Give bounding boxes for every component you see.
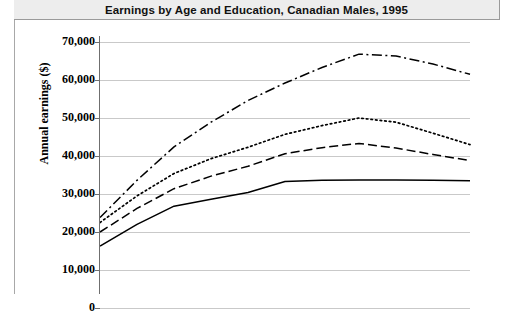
chart-lines-svg xyxy=(100,42,472,312)
y-axis-tick-label: 70,000 xyxy=(3,34,95,49)
y-axis-tick-label: 10,000 xyxy=(3,262,95,277)
y-axis-tick-label: 30,000 xyxy=(3,186,95,201)
series-line-solid xyxy=(100,180,470,246)
y-axis-tick-label: 20,000 xyxy=(3,224,95,239)
y-axis-tick-label: 40,000 xyxy=(3,148,95,163)
y-axis-tick-label: 60,000 xyxy=(3,72,95,87)
series-lines xyxy=(100,54,470,246)
y-axis-tick-label: 50,000 xyxy=(3,110,95,125)
series-line-dotted xyxy=(100,118,470,223)
y-axis-tick-label: 0 xyxy=(3,300,95,315)
page-title: Earnings by Age and Education, Canadian … xyxy=(105,4,408,16)
y-axis-tick-labels: 70,00060,00050,00040,00030,00020,00010,0… xyxy=(0,0,95,294)
plot-area xyxy=(100,42,470,308)
series-line-dash-dot xyxy=(100,54,470,217)
